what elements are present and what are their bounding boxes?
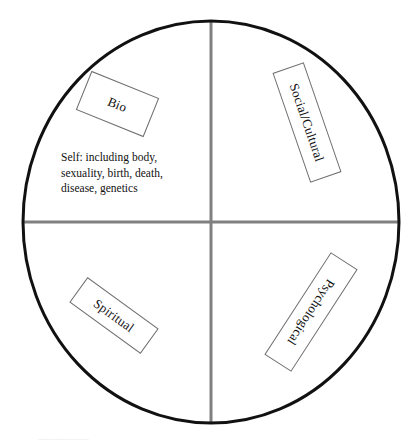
- self-description-line-3: disease, genetics: [61, 181, 211, 197]
- cropped-caption-remnant: .............................: [38, 435, 218, 441]
- self-description-text: Self: including body, sexuality, birth, …: [61, 150, 211, 197]
- quadrant-circle-diagram: Bio Social/Cultural Spiritual Psychologi…: [0, 0, 418, 441]
- self-description-line-2: sexuality, birth, death,: [61, 166, 211, 182]
- quadrant-label-bio: Bio: [106, 94, 129, 113]
- diagram-base-graphics: [0, 0, 418, 441]
- self-description-line-1: Self: including body,: [61, 150, 211, 166]
